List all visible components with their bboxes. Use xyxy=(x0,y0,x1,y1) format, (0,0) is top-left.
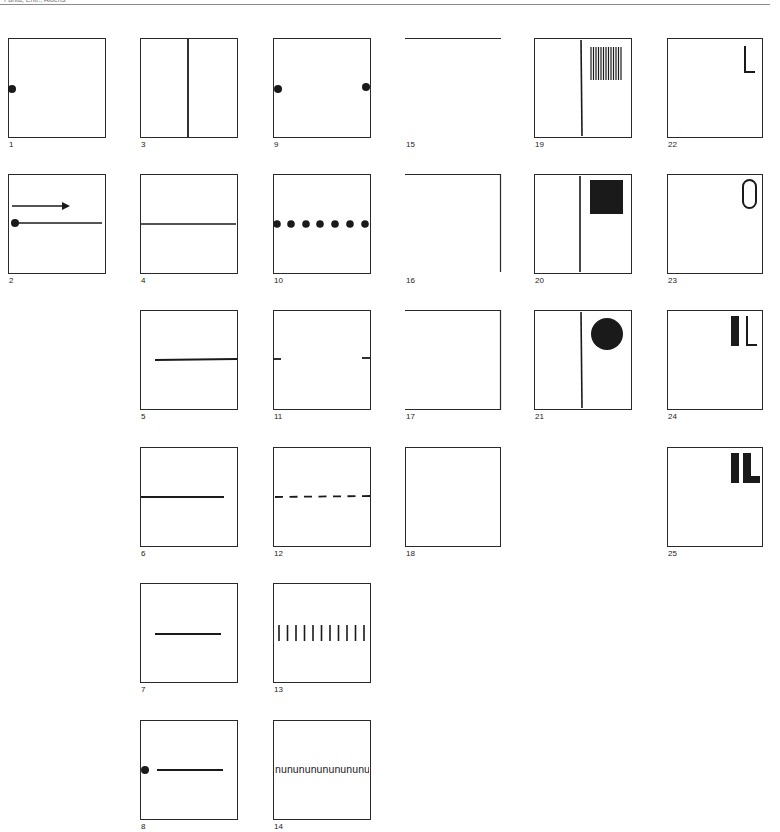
panel-5: 5 xyxy=(140,310,238,410)
panel-18: 18 xyxy=(405,447,503,547)
panel-6: 6 xyxy=(140,447,238,547)
header-rule xyxy=(0,4,770,5)
panel-label: 16 xyxy=(406,276,415,285)
horizontal-line-icon xyxy=(140,174,238,274)
letter-o-icon xyxy=(667,174,765,274)
panel-17: 17 xyxy=(405,310,503,410)
panel-9: 9 xyxy=(273,38,371,138)
vertical-bars-icon xyxy=(273,583,371,683)
panel-label: 21 xyxy=(535,412,544,421)
dashed-line-icon xyxy=(273,447,371,547)
dot-and-line-icon xyxy=(140,720,238,820)
panel-2: 2 xyxy=(8,174,106,274)
panel-25: 25 xyxy=(667,447,765,547)
header-left-text: Fanta, Entr., Alberts xyxy=(4,0,65,3)
panel-10: 10 xyxy=(273,174,371,274)
panel-23: 23 xyxy=(667,174,765,274)
panel-label: 12 xyxy=(274,549,283,558)
panel-frame xyxy=(405,447,501,547)
panel-label: 25 xyxy=(668,549,677,558)
edge-ticks-icon xyxy=(273,310,371,410)
panel-20: 20 xyxy=(534,174,632,274)
letter-l-icon xyxy=(667,38,765,138)
panel-11: 11 xyxy=(273,310,371,410)
panel-3: 3 xyxy=(140,38,238,138)
horizontal-line-icon xyxy=(140,310,238,410)
panel-label: 14 xyxy=(274,822,283,831)
panel-7: 7 xyxy=(140,583,238,683)
panel-label: 17 xyxy=(406,412,415,421)
top-edge-icon xyxy=(405,38,503,138)
horizontal-line-icon xyxy=(140,447,238,547)
filled-circle-icon xyxy=(534,310,632,410)
panel-label: 2 xyxy=(9,276,13,285)
panel-label: 13 xyxy=(274,685,283,694)
horizontal-line-icon xyxy=(140,583,238,683)
panel-label: 22 xyxy=(668,140,677,149)
arrow-right-icon xyxy=(8,174,106,274)
panel-label: 19 xyxy=(535,140,544,149)
panel-19: 19 xyxy=(534,38,632,138)
dot-row-icon xyxy=(273,174,371,274)
panel-24: 24 xyxy=(667,310,765,410)
panel-4: 4 xyxy=(140,174,238,274)
panel-text: nunununununununu xyxy=(275,763,369,775)
panel-label: 23 xyxy=(668,276,677,285)
panel-8: 8 xyxy=(140,720,238,820)
panel-1: 1 xyxy=(8,38,106,138)
panel-label: 18 xyxy=(406,549,415,558)
page-header: Fanta, Entr., Alberts xyxy=(0,0,780,10)
panel-15: 15 xyxy=(405,38,503,138)
grating-icon xyxy=(534,38,632,138)
filled-square-icon xyxy=(534,174,632,274)
panel-21: 21 xyxy=(534,310,632,410)
panel-14: nunununununununu 14 xyxy=(273,720,371,820)
bold-i-thin-l-icon xyxy=(667,310,765,410)
panel-label: 8 xyxy=(141,822,145,831)
panel-12: 12 xyxy=(273,447,371,547)
panel-label: 7 xyxy=(141,685,145,694)
edge-dot-icon xyxy=(8,38,106,138)
open-left-frame-icon xyxy=(405,310,503,410)
panel-label: 6 xyxy=(141,549,145,558)
panel-label: 11 xyxy=(274,412,282,421)
panel-label: 20 xyxy=(535,276,544,285)
panel-label: 10 xyxy=(274,276,283,285)
panel-label: 4 xyxy=(141,276,145,285)
top-right-edge-icon xyxy=(405,174,503,274)
panel-16: 16 xyxy=(405,174,503,274)
two-dots-icon xyxy=(273,38,371,138)
panel-label: 3 xyxy=(141,140,145,149)
panel-label: 15 xyxy=(406,140,415,149)
panel-22: 22 xyxy=(667,38,765,138)
vertical-line-icon xyxy=(140,38,238,138)
panel-label: 1 xyxy=(9,140,13,149)
panel-label: 5 xyxy=(141,412,145,421)
panel-13: 13 xyxy=(273,583,371,683)
panel-label: 24 xyxy=(668,412,677,421)
panel-label: 9 xyxy=(274,140,278,149)
bold-il-icon xyxy=(667,447,765,547)
